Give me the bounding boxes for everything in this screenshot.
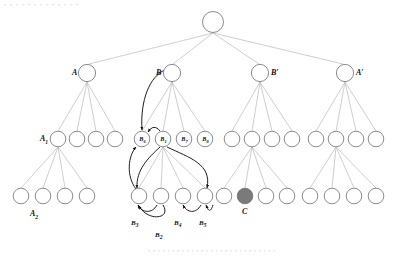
edge-root-Ap: [213, 33, 343, 64]
node-g3[interactable]: [258, 188, 274, 204]
arrow-to-f4: [206, 205, 213, 210]
node-e3[interactable]: [57, 188, 73, 204]
node-c3[interactable]: [264, 131, 280, 147]
arrow-B1-to-f1: [137, 147, 160, 188]
label-B1-sub: 1: [164, 139, 166, 144]
label-B8: B8: [198, 136, 213, 145]
node-h1[interactable]: [302, 188, 318, 204]
node-g1[interactable]: [216, 188, 232, 204]
node-f2[interactable]: [153, 188, 169, 204]
node-d4[interactable]: [368, 131, 384, 147]
label-B1: B1: [156, 136, 171, 145]
node-d1[interactable]: [308, 131, 324, 147]
label-C: C: [242, 208, 247, 216]
edge-Bpc2-g3: [252, 147, 266, 188]
node-h4[interactable]: [368, 188, 384, 204]
arrow-f4-to-f3: [183, 205, 201, 211]
label-B7-sub: 7: [185, 139, 187, 144]
label-B5-sub: 5: [204, 222, 207, 228]
label-B6: B6: [135, 136, 150, 145]
node-A2[interactable]: [13, 188, 29, 204]
label-A2-sub: 2: [35, 214, 38, 220]
node-A1[interactable]: [50, 131, 66, 147]
label-B4-sub: 4: [179, 222, 182, 228]
node-c4[interactable]: [284, 131, 300, 147]
node-h3[interactable]: [346, 188, 362, 204]
edge-Ap-c3: [345, 82, 356, 131]
edge-A1-g1: [21, 147, 58, 188]
edge-root-A: [89, 33, 213, 64]
edge-Apc2-g1: [310, 147, 336, 188]
edge-B1-g2: [161, 147, 163, 188]
edge-Bpc2-g2: [245, 147, 252, 188]
label-B2: B2: [155, 231, 162, 241]
edge-Apc2-g3: [336, 147, 354, 188]
arrow-B1-to-B6: [148, 127, 160, 132]
label-B6-sub: 6: [143, 139, 145, 144]
label-B4: B4: [174, 219, 181, 229]
label-B7: B7: [177, 136, 192, 145]
label-A1-sub: 1: [45, 139, 48, 145]
edge-Apc2-g2: [332, 147, 336, 188]
node-c1[interactable]: [224, 131, 240, 147]
node-c2[interactable]: [244, 131, 260, 147]
edge-A1-g3: [58, 147, 65, 188]
node-f4[interactable]: [197, 188, 213, 204]
node-e4[interactable]: [79, 188, 95, 204]
label-B8-sub: 8: [206, 139, 208, 144]
nodes-group: [13, 12, 384, 204]
edge-Bpc2-g4: [252, 147, 287, 188]
label-B: B: [156, 69, 161, 77]
edge-B1-g4: [163, 147, 205, 188]
node-a4[interactable]: [107, 131, 123, 147]
label-B5: B5: [199, 219, 206, 229]
edge-Apc2-g4: [336, 147, 376, 188]
label-Bp: B′: [271, 69, 279, 77]
label-Ap: A′: [356, 69, 364, 77]
edge-Bp-c4: [260, 82, 292, 131]
label-A2: A2: [30, 210, 38, 221]
node-C[interactable]: [237, 188, 253, 204]
node-A[interactable]: [78, 64, 95, 81]
node-f3[interactable]: [175, 188, 191, 204]
edge-Bp-c3: [260, 82, 272, 131]
node-Bp[interactable]: [251, 64, 268, 81]
node-a2[interactable]: [69, 131, 85, 147]
node-d3[interactable]: [348, 131, 364, 147]
arrow-f1-to-B6: [129, 147, 136, 189]
edge-root-Bp: [213, 33, 259, 64]
arrow-f2-to-f1: [139, 205, 165, 217]
node-h2[interactable]: [324, 188, 340, 204]
edge-A-c1: [58, 82, 87, 131]
edge-Bpc2-g1: [224, 147, 252, 188]
edge-A-c2: [77, 82, 87, 131]
tree-diagram-figure: • • • • • • • • • • • • •: [0, 0, 396, 257]
node-B[interactable]: [163, 64, 180, 81]
label-A: A: [72, 69, 77, 77]
node-Ap[interactable]: [336, 64, 353, 81]
node-root[interactable]: [203, 12, 224, 33]
node-e2[interactable]: [35, 188, 51, 204]
label-A1: A1: [40, 135, 48, 146]
arrow-B-to-B6: [142, 70, 165, 130]
bottom-faint-text: • • • • • • • • • • • • • • • • • • • • …: [62, 246, 362, 256]
edge-A1-g4: [58, 147, 87, 188]
node-g4[interactable]: [279, 188, 295, 204]
node-a3[interactable]: [88, 131, 104, 147]
edge-B-c3: [172, 82, 184, 131]
tree-edges-group: [21, 33, 376, 188]
tree-diagram-canvas: [0, 0, 396, 257]
edge-B-c4: [172, 82, 205, 131]
node-d2[interactable]: [328, 131, 344, 147]
edge-Ap-c4: [345, 82, 376, 131]
edge-B1-g1: [139, 147, 163, 188]
edge-A1-g2: [43, 147, 58, 188]
label-B2-sub: 2: [160, 234, 163, 240]
label-B3: B3: [131, 219, 138, 229]
label-B3-sub: 3: [136, 222, 139, 228]
node-f1[interactable]: [131, 188, 147, 204]
